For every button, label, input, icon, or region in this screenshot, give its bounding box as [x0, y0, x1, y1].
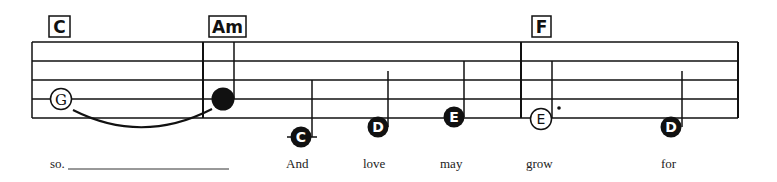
note-e-dotted-half: E — [531, 61, 561, 130]
lyric-love: love — [363, 156, 385, 172]
svg-text:D: D — [665, 119, 677, 135]
lyric-so: so. — [50, 156, 65, 172]
lyric-for: for — [661, 156, 676, 172]
note-g: G — [51, 89, 72, 110]
note-c: C — [287, 80, 317, 148]
lyric-may: may — [440, 156, 462, 172]
chord-box-c: C — [49, 16, 70, 37]
augmentation-dot — [557, 106, 561, 110]
music-staff-figure: C Am F G — [0, 0, 777, 182]
svg-text:C: C — [296, 129, 306, 145]
note-d-final: D — [661, 71, 683, 138]
svg-text:G: G — [55, 91, 67, 109]
svg-text:E: E — [449, 109, 459, 125]
note-tied-filled — [212, 42, 235, 111]
chord-label: F — [536, 17, 548, 37]
lyric-and: And — [286, 156, 308, 172]
chord-box-am: Am — [209, 16, 246, 37]
chord-label: C — [53, 17, 65, 37]
lyric-grow: grow — [526, 156, 553, 172]
staff-svg: C Am F G — [0, 0, 777, 182]
svg-text:D: D — [372, 119, 384, 135]
chord-box-f: F — [532, 16, 551, 37]
staff-lines — [32, 42, 738, 118]
note-e: E — [444, 61, 465, 128]
svg-text:E: E — [537, 111, 546, 127]
chord-label: Am — [212, 17, 243, 37]
note-d: D — [368, 71, 389, 138]
